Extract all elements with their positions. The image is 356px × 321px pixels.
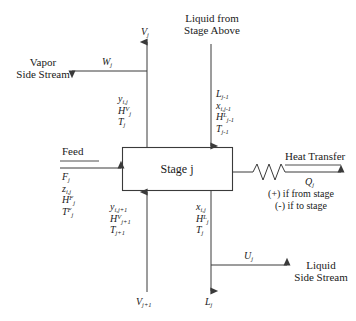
feed-prop-2: HFj xyxy=(62,194,75,206)
liquid-out-properties: xi,j HLj Tj xyxy=(196,201,209,236)
resistor-icon xyxy=(253,164,285,180)
vapor-in-prop-1: HVj+1 xyxy=(110,213,131,225)
liquid-side-stream-caption: Liquid Side Stream xyxy=(289,259,353,283)
liquid-from-above-caption: Liquid from Stage Above xyxy=(169,12,255,36)
heat-transfer-sign-note: (+) if from stage (-) if to stage xyxy=(246,188,356,212)
vapor-in-symbol: Vj+1 xyxy=(136,296,152,308)
liquid-from-above-prop-0: Lj-1 xyxy=(216,88,234,100)
vapor-in-prop-2: Tj+1 xyxy=(110,224,131,236)
liquid-out-prop-2: Tj xyxy=(196,224,209,236)
feed-prop-3: TFj xyxy=(62,206,75,218)
heat-transfer-sign-note-line1: (+) if from stage xyxy=(246,188,356,200)
vapor-out-properties: yi,j HVj Tj xyxy=(118,93,131,128)
feed-prop-1: zi,j xyxy=(62,183,75,195)
liquid-from-above-prop-2: HLj-1 xyxy=(216,111,234,123)
vapor-side-stream-symbol: Wj xyxy=(102,56,112,68)
feed-prop-0: Fj xyxy=(62,171,75,183)
vapor-out-prop-1: HVj xyxy=(118,105,131,117)
vapor-in-prop-0: yi,j+1 xyxy=(110,201,131,213)
vapor-out-prop-0: yi,j xyxy=(118,93,131,105)
feed-properties: Fj zi,j HFj TFj xyxy=(62,171,75,217)
liquid-out-prop-1: HLj xyxy=(196,213,209,225)
liquid-side-stream-symbol: Uj xyxy=(244,250,253,262)
liquid-from-above-properties: Lj-1 xi,j-1 HLj-1 Tj-1 xyxy=(216,88,234,134)
stage-box-label: Stage j xyxy=(122,162,232,177)
liquid-from-above-prop-3: Tj-1 xyxy=(216,123,234,135)
liquid-out-symbol: Lj xyxy=(205,296,212,308)
vapor-in-properties: yi,j+1 HVj+1 Tj+1 xyxy=(110,201,131,236)
vapor-out-symbol: Vj xyxy=(141,26,149,38)
heat-transfer-symbol: Qj xyxy=(305,176,314,188)
vapor-out-prop-2: Tj xyxy=(118,116,131,128)
liquid-out-prop-0: xi,j xyxy=(196,201,209,213)
vapor-side-stream-caption: Vapor Side Stream xyxy=(11,56,75,80)
heat-transfer-sign-note-line2: (-) if to stage xyxy=(246,200,356,212)
liquid-from-above-prop-1: xi,j-1 xyxy=(216,100,234,112)
stage-diagram: Stage j Vj Liquid from Stage Above Vapor… xyxy=(0,0,356,321)
heat-transfer-caption: Heat Transfer xyxy=(285,150,345,162)
feed-caption: Feed xyxy=(62,145,83,157)
